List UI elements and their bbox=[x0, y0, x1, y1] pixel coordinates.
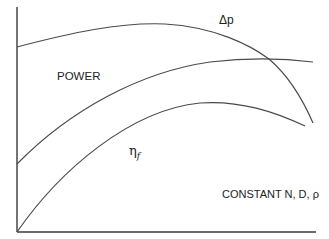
curve-efficiency bbox=[17, 103, 305, 232]
power-label: POWER bbox=[57, 71, 100, 83]
efficiency-subscript: f bbox=[137, 151, 140, 161]
efficiency-label: ηf bbox=[129, 144, 140, 161]
efficiency-symbol: η bbox=[129, 143, 137, 158]
delta-p-label: Δp bbox=[219, 14, 234, 26]
constant-conditions-label: CONSTANT N, D, ρ bbox=[222, 189, 319, 200]
fan-performance-chart bbox=[0, 0, 329, 239]
